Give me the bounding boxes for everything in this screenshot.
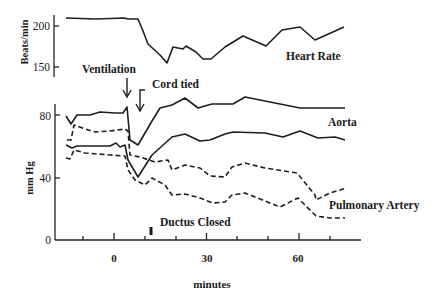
- pulmonary-systolic-line: [67, 125, 347, 200]
- aorta-diastolic-line: [66, 131, 345, 177]
- cord-tied-arrow-icon: [136, 90, 145, 111]
- x-tick-60: 60: [293, 252, 305, 264]
- hr-tick-150: 150: [33, 61, 51, 73]
- ventilation-arrow-icon: [123, 78, 131, 97]
- cord-tied-label: Cord tied: [152, 78, 200, 90]
- p-tick-40: 40: [40, 172, 52, 184]
- hr-y-axis: [54, 15, 59, 77]
- p-y-label: mm Hg: [24, 160, 35, 194]
- x-axis-label: minutes: [193, 278, 231, 290]
- aorta-label: Aorta: [328, 116, 357, 128]
- x-tick-0: 0: [111, 252, 117, 264]
- pulmonary-artery-label: Pulmonary Artery: [329, 199, 420, 212]
- ventilation-label: Ventilation: [82, 63, 136, 75]
- x-tick-30: 30: [202, 252, 214, 264]
- pulmonary-diastolic-line: [66, 150, 345, 218]
- physiology-chart: 200 150 Beats/min 80 40 0 mm Hg 0 30 60 …: [0, 0, 437, 300]
- hr-y-label: Beats/min: [19, 19, 30, 64]
- heart-rate-label: Heart Rate: [286, 50, 341, 62]
- ductus-closed-label: Ductus Closed: [160, 216, 231, 228]
- p-tick-80: 80: [40, 110, 52, 122]
- p-tick-0: 0: [45, 234, 51, 246]
- aorta-systolic-line: [66, 97, 345, 145]
- ductus-closed-marker: [150, 227, 153, 235]
- hr-tick-200: 200: [33, 20, 51, 32]
